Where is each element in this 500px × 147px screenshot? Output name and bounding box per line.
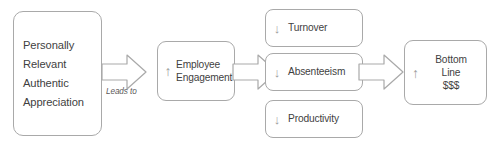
node-content: ↑ EmployeeEngagement	[163, 58, 230, 84]
node-label-turnover: Turnover	[282, 22, 358, 34]
diagram-canvas: PersonallyRelevantAuthenticAppreciation …	[0, 0, 500, 147]
node-personally-relevant-authentic-appreciation: PersonallyRelevantAuthenticAppreciation	[13, 11, 102, 136]
node-bottom-line: ↑ BottomLine$$$	[404, 40, 487, 105]
trend-up-icon: ↑	[163, 64, 173, 78]
node-productivity: ↓ Productivity	[265, 100, 363, 138]
node-content: ↑ BottomLine$$$	[410, 53, 481, 92]
node-label-engagement: EmployeeEngagement	[173, 58, 232, 84]
node-label-productivity: Productivity	[282, 113, 358, 125]
block-arrow-right-icon	[358, 52, 404, 96]
node-content: ↓ Productivity	[272, 113, 358, 126]
trend-down-icon: ↓	[272, 113, 282, 126]
connector-label-leads-to: Leads to	[106, 87, 137, 96]
node-content: ↓ Turnover	[272, 22, 358, 35]
node-employee-engagement: ↑ EmployeeEngagement	[157, 41, 235, 101]
node-label-appreciation: PersonallyRelevantAuthenticAppreciation	[23, 36, 101, 112]
node-absenteeism: ↓ Absenteeism	[265, 53, 363, 91]
node-turnover: ↓ Turnover	[265, 9, 363, 47]
node-label-absenteeism: Absenteeism	[282, 66, 358, 78]
trend-down-icon: ↓	[272, 66, 282, 79]
node-content: PersonallyRelevantAuthenticAppreciation	[23, 36, 101, 112]
trend-down-icon: ↓	[272, 22, 282, 35]
node-label-bottomline: BottomLine$$$	[421, 53, 481, 92]
trend-up-icon: ↑	[410, 66, 421, 80]
node-content: ↓ Absenteeism	[272, 66, 358, 79]
